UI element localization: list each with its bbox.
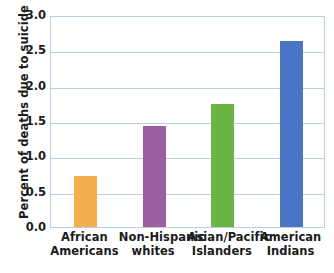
x-axis-label-line: Non-Hispanic xyxy=(119,230,188,244)
x-axis-category-label: AfricanAmericans xyxy=(50,230,119,258)
x-axis-category-labels: AfricanAmericansNon-HispanicwhitesAsian/… xyxy=(50,230,325,272)
x-axis-label-line: Asian/Pacific xyxy=(188,230,257,244)
y-axis-tick-label: 0.0 xyxy=(20,222,46,233)
x-axis-label-line: Islanders xyxy=(188,244,257,258)
y-axis-tick-label: 0.5 xyxy=(20,187,46,198)
y-axis-tick-label: 3.0 xyxy=(20,10,46,21)
bar xyxy=(211,104,234,227)
bars-layer xyxy=(51,17,324,227)
x-axis-category-label: Non-Hispanicwhites xyxy=(119,230,188,258)
bar xyxy=(74,176,97,227)
y-axis-tick-labels: 3.02.52.01.51.00.50.0 xyxy=(18,0,46,273)
x-axis-label-line: Indians xyxy=(256,244,325,258)
x-axis-label-line: African xyxy=(50,230,119,244)
bar-chart: Percent of deaths due to suicide 3.02.52… xyxy=(0,0,334,273)
x-axis-category-label: AmericanIndians xyxy=(256,230,325,258)
x-axis-category-label: Asian/PacificIslanders xyxy=(188,230,257,258)
x-axis-label-line: American xyxy=(256,230,325,244)
bar xyxy=(143,126,166,227)
plot-area xyxy=(50,16,325,228)
y-axis-tick-label: 2.5 xyxy=(20,45,46,56)
y-axis-tick-label: 1.0 xyxy=(20,151,46,162)
x-axis-label-line: Americans xyxy=(50,244,119,258)
x-axis-label-line: whites xyxy=(119,244,188,258)
y-axis-tick-label: 2.0 xyxy=(20,81,46,92)
bar xyxy=(280,41,303,227)
y-axis-tick-label: 1.5 xyxy=(20,116,46,127)
